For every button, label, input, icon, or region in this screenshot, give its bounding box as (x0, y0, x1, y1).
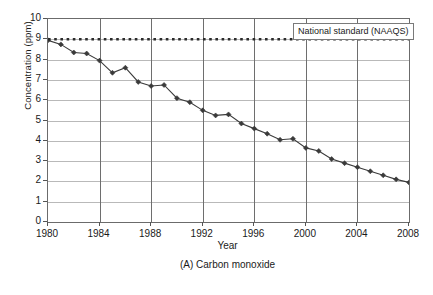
x-axis-tick-label: 1980 (27, 229, 67, 239)
data-point-marker (213, 113, 218, 118)
x-axis-tick-mark (305, 222, 306, 226)
y-axis-tick-label: 2 (25, 175, 41, 185)
data-point-marker (149, 83, 154, 88)
x-axis-tick-label: 1988 (130, 229, 170, 239)
legend-naaqs-label: National standard (NAAQS) (298, 26, 409, 36)
data-point-marker (84, 51, 89, 56)
y-axis-tick-label: 1 (25, 196, 41, 206)
legend-naaqs: National standard (NAAQS) (293, 23, 414, 40)
data-point-marker (278, 137, 283, 142)
y-axis-tick-label: 6 (25, 94, 41, 104)
data-point-marker (71, 50, 76, 55)
y-axis-tick-label: 10 (25, 13, 41, 23)
data-point-marker (394, 177, 399, 182)
y-axis-tick-label: 9 (25, 33, 41, 43)
x-axis-tick-mark (408, 222, 409, 226)
x-axis-tick-label: 1984 (79, 229, 119, 239)
y-axis-tick-label: 5 (25, 115, 41, 125)
data-point-marker (342, 161, 347, 166)
data-point-marker (381, 173, 386, 178)
data-point-marker (355, 165, 360, 170)
y-axis-tick-label: 7 (25, 74, 41, 84)
data-point-marker (368, 169, 373, 174)
y-axis-tick-label: 4 (25, 135, 41, 145)
x-axis-tick-mark (202, 222, 203, 226)
x-axis-tick-mark (99, 222, 100, 226)
y-axis-tick-label: 0 (25, 216, 41, 226)
x-axis-tick-label: 2004 (336, 229, 376, 239)
x-axis-tick-mark (47, 222, 48, 226)
data-point-marker (265, 131, 270, 136)
x-axis-tick-label: 1996 (233, 229, 273, 239)
data-point-marker (200, 108, 205, 113)
chart-figure: Concentration (ppm) 012345678910 1980198… (0, 0, 433, 295)
data-point-marker (407, 180, 410, 185)
x-axis-tick-mark (150, 222, 151, 226)
y-axis-tick-label: 8 (25, 54, 41, 64)
series-line-carbon-monoxide (48, 40, 409, 182)
x-axis-tick-label: 2008 (388, 229, 428, 239)
x-axis-tick-label: 1992 (182, 229, 222, 239)
data-series-layer (48, 19, 409, 222)
x-axis-tick-label: 2000 (285, 229, 325, 239)
data-point-marker (252, 126, 257, 131)
x-axis-title: Year (47, 240, 408, 251)
figure-caption: (A) Carbon monoxide (47, 259, 408, 270)
x-axis-tick-mark (253, 222, 254, 226)
plot-area (47, 18, 410, 223)
x-axis-tick-mark (356, 222, 357, 226)
y-axis-tick-label: 3 (25, 155, 41, 165)
